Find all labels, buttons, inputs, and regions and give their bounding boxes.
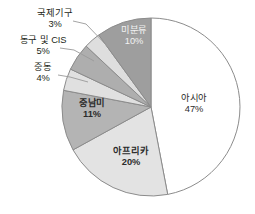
slice-label-intorg-pct: 3% [24,19,86,30]
slice-label-unclassified: 미분류 10% [110,25,158,47]
slice-label-intorg: 국제기구 3% [24,8,86,30]
slice-label-cis-name: 동구 및 CIS [8,35,78,46]
slice-label-asia-pct: 47% [168,104,220,115]
slice-label-africa-name: 아프리카 [101,146,161,157]
slice-label-cis-pct: 5% [8,46,78,57]
slice-label-asia: 아시아 47% [168,93,220,115]
slice-label-latam: 중남미 11% [66,98,118,120]
slice-label-latam-pct: 11% [66,109,118,120]
slice-label-mideast-name: 중동 [20,62,66,73]
slice-label-unclassified-name: 미분류 [110,25,158,36]
slice-label-africa: 아프리카 20% [101,146,161,168]
slice-label-intorg-name: 국제기구 [24,8,86,19]
slice-label-mideast-pct: 4% [20,73,66,84]
slice-label-cis: 동구 및 CIS 5% [8,35,78,57]
slice-label-unclassified-pct: 10% [110,36,158,47]
pie-chart-figure: 국제기구 3% 동구 및 CIS 5% 중동 4% 중남미 11% 아프리카 2… [0,0,255,214]
slice-label-africa-pct: 20% [101,157,161,168]
slice-label-latam-name: 중남미 [66,98,118,109]
slice-label-mideast: 중동 4% [20,62,66,84]
slice-label-asia-name: 아시아 [168,93,220,104]
